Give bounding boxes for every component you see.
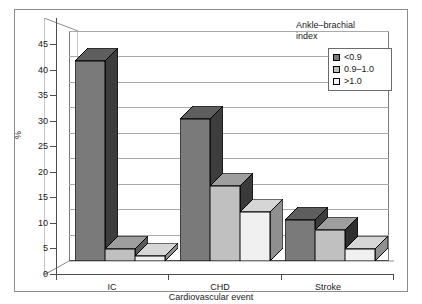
figure-container: 45 40 35 30 25 20 15 10 5 0 %: [0, 0, 422, 304]
bar-stroke-lt09: [285, 220, 315, 261]
y-label-5: 5: [22, 244, 48, 253]
y-tick-15: [50, 197, 57, 198]
legend-label-09to10: 0.9–1.0: [344, 65, 374, 74]
y-label-10: 10: [22, 219, 48, 228]
y-label-0: 0: [22, 270, 48, 279]
x-category-stroke: Stroke: [303, 282, 353, 292]
y-tick-20: [50, 172, 57, 173]
y-tick-5: [50, 248, 57, 249]
bar-chd-lt09: [180, 119, 210, 261]
y-axis-title: %: [14, 131, 23, 139]
x-tick-chd: [281, 274, 282, 280]
legend-swatch-lt09: [333, 54, 340, 61]
legend-swatch-gt10: [333, 78, 340, 85]
x-tick-0: [56, 274, 57, 280]
legend-label-gt10: >1.0: [344, 77, 362, 86]
legend-title: Ankle–brachial index: [296, 20, 355, 42]
bar-stroke-gt10: [345, 249, 375, 261]
legend-title-line1: Ankle–brachial: [296, 20, 355, 31]
bar-ic-lt09: [75, 61, 105, 261]
y-label-45: 45: [22, 40, 48, 49]
plot-area: 45 40 35 30 25 20 15 10 5 0 %: [0, 0, 422, 304]
y-tick-35: [50, 95, 57, 96]
y-label-25: 25: [22, 142, 48, 151]
y-label-30: 30: [22, 117, 48, 126]
legend-item-09to10[interactable]: 0.9–1.0: [333, 64, 386, 75]
x-category-chd: CHD: [200, 282, 240, 292]
x-axis-line: [56, 274, 394, 275]
y-tick-10: [50, 223, 57, 224]
y-label-35: 35: [22, 91, 48, 100]
legend-box: <0.9 0.9–1.0 >1.0: [328, 48, 392, 91]
y-label-15: 15: [22, 193, 48, 202]
y-tick-40: [50, 70, 57, 71]
y-tick-30: [50, 121, 57, 122]
x-axis-title: Cardiovascular event: [0, 292, 422, 302]
legend-swatch-09to10: [333, 66, 340, 73]
x-tick-ic: [168, 274, 169, 280]
bar-ic-09to10: [105, 249, 135, 261]
y-label-40: 40: [22, 66, 48, 75]
bar-chd-09to10: [210, 186, 240, 261]
x-category-ic: IC: [92, 282, 132, 292]
y-tick-25: [50, 146, 57, 147]
bar-stroke-09to10: [315, 230, 345, 261]
y-tick-45: [50, 44, 57, 45]
bar-ic-gt10: [135, 256, 165, 261]
y-axis-labels: 45 40 35 30 25 20 15 10 5 0: [14, 0, 48, 304]
bar-chd-gt10: [240, 212, 270, 261]
legend-title-line2: index: [296, 31, 355, 42]
legend-item-lt09[interactable]: <0.9: [333, 52, 386, 63]
legend-item-gt10[interactable]: >1.0: [333, 76, 386, 87]
x-tick-stroke: [393, 274, 394, 280]
y-label-20: 20: [22, 168, 48, 177]
legend-label-lt09: <0.9: [344, 53, 362, 62]
